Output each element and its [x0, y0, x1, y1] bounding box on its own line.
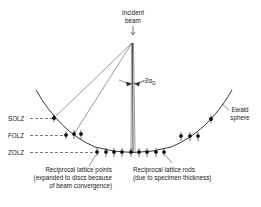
ewald-leader	[222, 104, 229, 110]
ewald-sphere-arc	[36, 90, 232, 153]
points-note-leader	[89, 155, 96, 166]
ewald-label-line2: sphere	[230, 114, 250, 122]
points-note-line1: Reciprocal lattice points	[46, 166, 113, 174]
incident-beam-label-line2: beam	[125, 17, 141, 24]
rods-note-line2: (due to specimen thickness)	[133, 174, 211, 182]
incident-arrow-icon	[131, 26, 135, 35]
zolz-label: ZOLZ	[8, 149, 24, 156]
angle-label: 2αD	[145, 77, 156, 86]
points-note-line2: (expanded to discs because	[34, 174, 113, 182]
ewald-sphere-diagram: Incident beam 2αD SOLZ FOLZ ZOLZ	[0, 0, 261, 207]
ewald-label-line1: Ewald	[231, 106, 249, 113]
points-note-line3: of beam convergence)	[49, 182, 112, 190]
rods-note-leader	[165, 155, 172, 163]
folz-label: FOLZ	[8, 132, 24, 139]
solz-label: SOLZ	[8, 115, 25, 122]
incident-beam-label-line1: Incident	[122, 9, 144, 16]
rods-note-line1: Reciprocal lattice rods	[133, 166, 195, 174]
